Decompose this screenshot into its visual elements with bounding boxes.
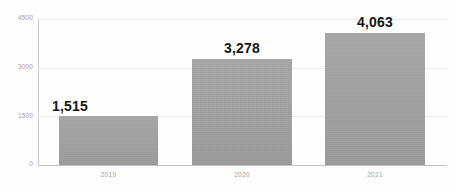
y-axis-tick-4500: 4500 <box>0 15 33 22</box>
bar-chart: 4500 3000 1500 0 1,515 3,278 4,063 2019 … <box>0 0 456 193</box>
x-axis-label-2019: 2019 <box>59 172 158 179</box>
value-label-2020: 3,278 <box>192 41 292 55</box>
x-axis-label-2020: 2020 <box>192 172 292 179</box>
bar-2020 <box>192 59 292 165</box>
y-axis-tick-3000: 3000 <box>0 64 33 71</box>
value-label-2021: 4,063 <box>325 15 425 29</box>
x-axis-label-2021: 2021 <box>325 172 425 179</box>
x-axis-line <box>38 165 447 166</box>
y-axis-tick-1500: 1500 <box>0 113 33 120</box>
y-axis-tick-0: 0 <box>0 161 33 168</box>
bar-2021 <box>325 33 425 165</box>
bar-2019 <box>59 116 158 165</box>
value-label-2019: 1,515 <box>20 99 120 113</box>
